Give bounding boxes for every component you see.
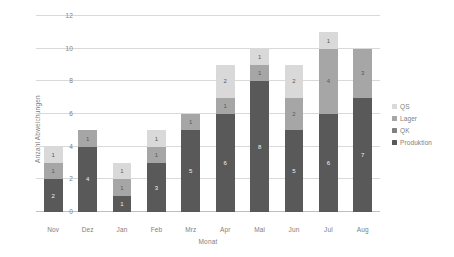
x-tick-label: Jan — [105, 226, 139, 233]
x-tick-label: Feb — [139, 226, 173, 233]
y-tick-label: 4 — [49, 143, 73, 150]
bar-group[interactable]: 522 — [285, 16, 304, 212]
bar-value-label: 6 — [224, 160, 227, 166]
legend-swatch-icon — [392, 128, 397, 133]
bar-value-label: 2 — [292, 78, 295, 84]
bar-segment[interactable]: 7 — [353, 98, 372, 212]
bar-group[interactable]: 641 — [319, 16, 338, 212]
legend-item[interactable]: Lager — [392, 112, 452, 124]
bar-value-label: 8 — [258, 144, 261, 150]
bar-value-label: 1 — [189, 119, 192, 125]
bar-segment[interactable]: 1 — [250, 49, 269, 65]
bar-value-label: 4 — [86, 176, 89, 182]
bar-segment[interactable]: 1 — [113, 179, 132, 195]
legend-item[interactable]: QK — [392, 124, 452, 136]
bar-value-label: 1 — [86, 136, 89, 142]
bar-group[interactable]: 51 — [181, 16, 200, 212]
x-tick-label: Mrz — [174, 226, 208, 233]
bar-segment[interactable]: 2 — [285, 98, 304, 131]
bar-group[interactable]: 311 — [147, 16, 166, 212]
bar-value-label: 1 — [52, 152, 55, 158]
bar-value-label: 6 — [327, 160, 330, 166]
bar-value-label: 4 — [327, 78, 330, 84]
bar-segment[interactable]: 6 — [319, 114, 338, 212]
legend-label: QK — [400, 127, 410, 134]
x-axis-title: Monat — [36, 238, 380, 245]
bar-value-label: 1 — [327, 38, 330, 44]
chart-container: Anzahl Abweichungen 21141111311516128115… — [0, 0, 454, 257]
bar-segment[interactable]: 1 — [147, 130, 166, 146]
x-tick-label: Mai — [242, 226, 276, 233]
y-tick-label: 12 — [49, 12, 73, 19]
bar-group[interactable]: 612 — [216, 16, 235, 212]
x-tick-label: Nov — [36, 226, 70, 233]
bar-segment[interactable]: 1 — [216, 98, 235, 114]
bar-value-label: 3 — [361, 70, 364, 76]
bar-value-label: 1 — [258, 70, 261, 76]
bar-group[interactable]: 73 — [353, 16, 372, 212]
bar-segment[interactable]: 1 — [147, 147, 166, 163]
plot-frame: 211411113115161281152264173 — [36, 16, 380, 218]
y-tick-label: 2 — [49, 175, 73, 182]
x-tick-label: Jul — [311, 226, 345, 233]
bar-value-label: 3 — [155, 185, 158, 191]
bar-segment[interactable]: 2 — [285, 65, 304, 98]
y-tick-label: 0 — [49, 208, 73, 215]
bar-value-label: 2 — [224, 78, 227, 84]
legend-item[interactable]: QS — [392, 100, 452, 112]
bar-value-label: 2 — [52, 193, 55, 199]
bar-segment[interactable]: 4 — [78, 147, 97, 212]
bar-value-label: 7 — [361, 152, 364, 158]
bar-segment[interactable]: 3 — [353, 49, 372, 98]
bar-group[interactable]: 811 — [250, 16, 269, 212]
bar-value-label: 2 — [292, 111, 295, 117]
legend-label: Produktion — [400, 139, 432, 146]
x-tick-label: Aug — [346, 226, 380, 233]
bar-segment[interactable]: 2 — [216, 65, 235, 98]
chart-legend: QSLagerQKProduktion — [392, 100, 452, 148]
bar-value-label: 1 — [120, 201, 123, 207]
bar-segment[interactable]: 1 — [319, 32, 338, 48]
y-tick-label: 6 — [49, 110, 73, 117]
legend-swatch-icon — [392, 140, 397, 145]
plot-area: 211411113115161281152264173 — [36, 16, 380, 212]
bar-segment[interactable]: 1 — [113, 163, 132, 179]
bar-segment[interactable]: 1 — [181, 114, 200, 130]
x-tick-label: Apr — [208, 226, 242, 233]
bar-value-label: 1 — [155, 152, 158, 158]
legend-swatch-icon — [392, 104, 397, 109]
bar-group[interactable]: 41 — [78, 16, 97, 212]
legend-item[interactable]: Produktion — [392, 136, 452, 148]
bar-value-label: 1 — [224, 103, 227, 109]
x-tick-label: Dez — [70, 226, 104, 233]
bar-value-label: 1 — [120, 185, 123, 191]
bar-group[interactable]: 111 — [113, 16, 132, 212]
bar-segment[interactable]: 1 — [250, 65, 269, 81]
y-tick-label: 10 — [49, 45, 73, 52]
legend-label: Lager — [400, 115, 417, 122]
bar-segment[interactable]: 6 — [216, 114, 235, 212]
bar-segment[interactable]: 8 — [250, 81, 269, 212]
bar-segment[interactable]: 3 — [147, 163, 166, 212]
legend-swatch-icon — [392, 116, 397, 121]
bar-segment[interactable]: 4 — [319, 49, 338, 114]
bar-segment[interactable]: 1 — [113, 196, 132, 212]
y-tick-label: 8 — [49, 77, 73, 84]
x-tick-label: Jun — [277, 226, 311, 233]
bar-value-label: 5 — [189, 168, 192, 174]
bar-value-label: 1 — [52, 168, 55, 174]
bar-segment[interactable]: 5 — [285, 130, 304, 212]
bar-value-label: 1 — [155, 136, 158, 142]
bar-value-label: 1 — [120, 168, 123, 174]
bar-value-label: 5 — [292, 168, 295, 174]
bar-segment[interactable]: 1 — [78, 130, 97, 146]
bar-value-label: 1 — [258, 54, 261, 60]
bar-segment[interactable]: 5 — [181, 130, 200, 212]
legend-label: QS — [400, 103, 410, 110]
